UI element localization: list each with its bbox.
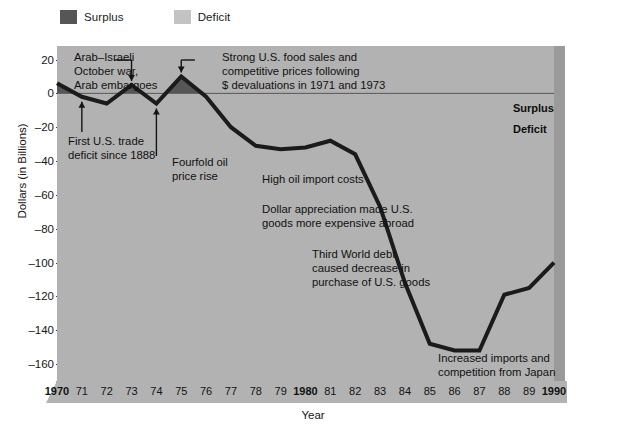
annotation-increased-imports: Increased imports and competition from J… (438, 351, 555, 379)
x-tick-label: 77 (218, 385, 244, 397)
legend-item-deficit: Deficit (174, 10, 231, 24)
annotation-first-deficit: First U.S. trade deficit since 1888 (68, 134, 155, 162)
x-tick-label: 74 (143, 385, 169, 397)
x-tick-label: 71 (69, 385, 95, 397)
legend-label-surplus: Surplus (84, 11, 124, 23)
x-tick-label: 85 (417, 385, 443, 397)
x-tick-label: 73 (119, 385, 145, 397)
x-tick-label: 81 (317, 385, 343, 397)
x-tick-label: 1990 (541, 385, 567, 397)
x-tick-label: 89 (516, 385, 542, 397)
annotation-dollar-appreciation: Dollar appreciation made U.S. goods more… (262, 202, 414, 230)
x-tick-label: 1970 (44, 385, 70, 397)
annotation-strong-food-sales: Strong U.S. food sales and competitive p… (222, 50, 385, 93)
y-tick-label: –100 (20, 257, 54, 269)
x-axis: 1970717273747576777879198081828384858687… (46, 381, 567, 403)
x-tick-label: 76 (193, 385, 219, 397)
annotation-third-world-debt: Third World debt caused decrease in purc… (312, 247, 430, 290)
x-tick-label: 78 (243, 385, 269, 397)
x-tick-label: 84 (392, 385, 418, 397)
annotation-arab-israeli: Arab–Israeli October war, Arab embargoes (74, 50, 158, 93)
y-tick-label: 0 (20, 87, 54, 99)
legend-label-deficit: Deficit (198, 11, 231, 23)
chart-legend: Surplus Deficit (60, 10, 274, 24)
annotation-fourfold-oil: Fourfold oil price rise (172, 155, 228, 183)
annotation-arrow (78, 102, 85, 132)
annotation-arrow (178, 60, 185, 72)
x-tick-label: 86 (442, 385, 468, 397)
surplus-edge-label: Surplus (513, 102, 554, 114)
y-tick-label: –160 (20, 358, 54, 370)
legend-swatch-deficit (174, 10, 191, 24)
x-tick-label: 82 (342, 385, 368, 397)
x-tick-label: 75 (168, 385, 194, 397)
x-tick-label: 1980 (293, 385, 319, 397)
x-tick-label: 83 (367, 385, 393, 397)
annotation-high-oil: High oil import costs (262, 172, 364, 186)
trade-balance-chart: Surplus Deficit 200–20–40–60–80–100–120–… (0, 0, 626, 433)
y-tick-label: 20 (20, 54, 54, 66)
x-tick-label: 87 (466, 385, 492, 397)
y-axis-title: Dollars (in Billions) (16, 106, 28, 236)
x-axis-title: Year (0, 409, 626, 421)
legend-swatch-surplus (60, 10, 77, 24)
x-tick-label: 72 (94, 385, 120, 397)
x-tick-label: 79 (268, 385, 294, 397)
y-tick-label: –120 (20, 290, 54, 302)
x-tick-label: 88 (491, 385, 517, 397)
deficit-edge-label: Deficit (513, 123, 547, 135)
legend-item-surplus: Surplus (60, 10, 124, 24)
y-tick-label: –140 (20, 324, 54, 336)
